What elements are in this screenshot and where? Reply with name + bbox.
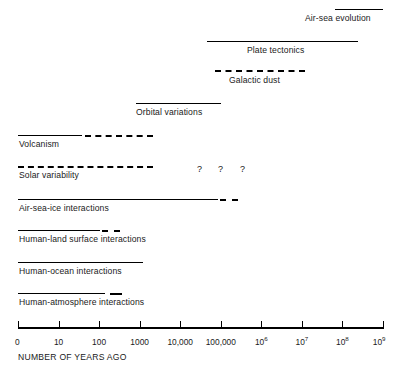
axis-tick <box>342 321 343 329</box>
bar-label: Air-sea-ice interactions <box>19 203 109 213</box>
axis-tick <box>302 321 303 329</box>
bar-label: Volcanism <box>19 139 59 149</box>
bar-label: Human-atmosphere interactions <box>19 297 144 307</box>
axis-tick-label: 100 <box>92 337 106 347</box>
bar-segment-dashed <box>85 135 153 137</box>
bar-segment-solid <box>18 293 105 294</box>
axis-tick-label: 10,000 <box>167 337 193 347</box>
axis-title-label: NUMBER OF YEARS AGO <box>18 352 127 362</box>
uncertainty-question-mark: ? <box>240 164 245 174</box>
bar-label: Human-land surface interactions <box>19 234 146 244</box>
bar-segment-solid <box>18 199 218 200</box>
bar-segment-dashed <box>215 70 305 72</box>
axis-tick <box>99 321 100 329</box>
axis-tick <box>140 321 141 329</box>
axis-line <box>18 327 383 329</box>
bar-segment-solid <box>18 262 143 263</box>
bar-segment-solid <box>18 135 82 136</box>
axis-tick <box>59 321 60 329</box>
uncertainty-question-mark: ? <box>218 164 223 174</box>
bar-segment-dashed <box>110 293 122 295</box>
axis-tick-label: 109 <box>373 337 386 347</box>
bar-segment-solid <box>18 230 100 231</box>
bar-segment-solid <box>136 103 221 104</box>
bar-label: Galactic dust <box>229 75 280 85</box>
bar-label: Human-ocean interactions <box>19 266 122 276</box>
axis-tick-label: 100,000 <box>206 337 236 347</box>
axis-tick-label: 10 <box>54 337 63 347</box>
timescales-chart: Air-sea evolutionPlate tectonicsGalactic… <box>0 0 402 366</box>
bar-segment-dashed <box>102 230 120 232</box>
bar-segment-dashed <box>220 199 238 201</box>
axis-tick-label: 0 <box>15 337 20 347</box>
bar-label: Solar variability <box>19 170 79 180</box>
axis-tick <box>221 321 222 329</box>
axis-tick <box>18 321 19 329</box>
axis-tick-label: 106 <box>255 337 268 347</box>
axis-tick <box>180 321 181 329</box>
bar-segment-dashed <box>18 166 153 168</box>
axis-tick-label: 108 <box>336 337 349 347</box>
axis-tick <box>383 321 384 329</box>
x-axis: 010100100010,000100,000106107108109 NUMB… <box>0 0 402 60</box>
axis-tick <box>261 321 262 329</box>
bar-label: Orbital variations <box>136 107 202 117</box>
axis-tick-label: 1000 <box>130 337 149 347</box>
axis-tick-label: 107 <box>296 337 309 347</box>
uncertainty-question-mark: ? <box>197 164 202 174</box>
